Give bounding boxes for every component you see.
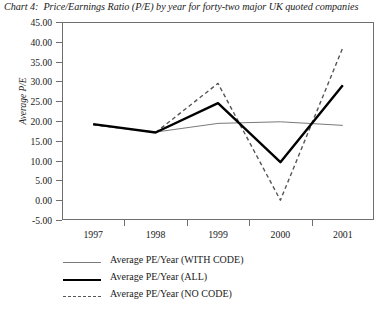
x-tick-label: 1997 [63, 229, 123, 240]
y-tick-label: 35.00 [0, 56, 52, 67]
y-tick-label: 25.00 [0, 96, 52, 107]
chart-page: Chart 4:Price/Earnings Ratio (P/E) by ye… [0, 0, 388, 310]
x-tick-label: 2001 [313, 229, 373, 240]
chart-title-text: Price/Earnings Ratio (P/E) by year for f… [43, 1, 358, 12]
x-tick-mark [249, 220, 250, 226]
y-tick-label: 30.00 [0, 76, 52, 87]
series-layer [62, 22, 374, 220]
legend-label: Average PE/Year (ALL) [110, 271, 207, 282]
legend-line-sample [63, 262, 101, 263]
legend-label: Average PE/Year (WITH CODE) [110, 254, 243, 265]
y-tick-label: 15.00 [0, 135, 52, 146]
x-tick-mark [187, 220, 188, 226]
y-tick-label: 5.00 [0, 175, 52, 186]
y-tick-label: 0.00 [0, 195, 52, 206]
x-tick-mark [124, 220, 125, 226]
legend: Average PE/Year (WITH CODE)Average PE/Ye… [63, 254, 363, 305]
x-tick-mark [312, 220, 313, 226]
y-tick-label: 40.00 [0, 36, 52, 47]
x-tick-label: 1998 [126, 229, 186, 240]
chart-number-label: Chart 4: [4, 1, 38, 12]
legend-item[interactable]: Average PE/Year (WITH CODE) [63, 254, 363, 271]
legend-line-sample [63, 279, 101, 281]
legend-item[interactable]: Average PE/Year (ALL) [63, 271, 363, 288]
x-tick-label: 1999 [188, 229, 248, 240]
series-line-no-code [93, 48, 343, 200]
y-tick-label: 20.00 [0, 116, 52, 127]
legend-item[interactable]: Average PE/Year (NO CODE) [63, 288, 363, 305]
y-tick-label: 10.00 [0, 155, 52, 166]
y-tick-mark [56, 220, 62, 221]
x-tick-label: 2000 [250, 229, 310, 240]
y-tick-label: -5.00 [0, 215, 52, 226]
legend-line-sample [63, 296, 101, 297]
legend-label: Average PE/Year (NO CODE) [110, 288, 232, 299]
y-tick-label: 45.00 [0, 17, 52, 28]
page-title: Chart 4:Price/Earnings Ratio (P/E) by ye… [4, 1, 388, 12]
